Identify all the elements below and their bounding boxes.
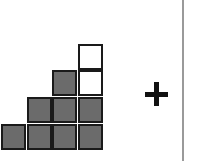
empty-square bbox=[78, 70, 103, 96]
filled-square bbox=[27, 97, 52, 123]
filled-square bbox=[52, 70, 77, 96]
filled-square bbox=[1, 124, 26, 150]
vertical-divider bbox=[182, 0, 184, 161]
filled-square bbox=[27, 124, 52, 150]
filled-square bbox=[78, 124, 103, 150]
filled-square bbox=[52, 124, 77, 150]
plus-vertical-bar bbox=[154, 82, 159, 106]
empty-square bbox=[78, 44, 103, 70]
filled-square bbox=[52, 97, 77, 123]
filled-square bbox=[78, 97, 103, 123]
